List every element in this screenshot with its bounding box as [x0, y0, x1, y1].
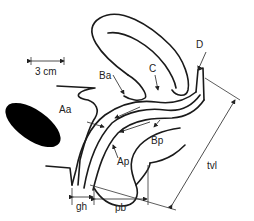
perineum-line [46, 166, 72, 185]
pelvic-anatomy-diagram: 3 cm Ba C D Aa Ap Bp gh pb tvl [0, 0, 254, 221]
anterior-vaginal-wall [84, 95, 200, 188]
label-aa: Aa [59, 104, 72, 115]
label-pb: pb [115, 202, 127, 213]
label-ba: Ba [99, 70, 112, 81]
cervix-outline [124, 75, 146, 100]
tvl-reference-line [90, 185, 176, 210]
label-bp: Bp [151, 135, 164, 146]
pubic-bone-shape [0, 94, 68, 155]
label-tvl: tvl [207, 160, 217, 171]
scale-bar-label: 3 cm [35, 66, 57, 77]
bladder-wall [57, 86, 97, 185]
label-c: C [149, 63, 156, 74]
posterior-vaginal-wall [93, 100, 204, 190]
urethra-line [72, 92, 196, 185]
label-d: D [196, 39, 203, 50]
rectum-outline [150, 145, 185, 163]
scale-bar: 3 cm [31, 57, 64, 77]
perineal-body-outline [94, 128, 180, 206]
tvl-reference-line-top [205, 78, 240, 100]
label-gh: gh [76, 201, 87, 212]
label-ap: Ap [117, 156, 130, 167]
